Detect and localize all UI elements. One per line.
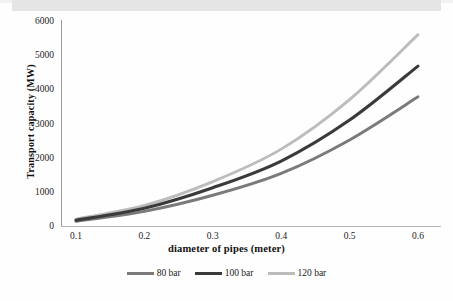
series-line-80-bar [76, 97, 418, 221]
legend-item-120-bar[interactable]: 120 bar [268, 268, 327, 279]
legend-swatch-icon [127, 272, 154, 275]
legend-label: 80 bar [157, 268, 181, 279]
legend-swatch-icon [268, 272, 295, 275]
legend-label: 100 bar [225, 268, 254, 279]
chart-curves [0, 0, 453, 301]
series-line-120-bar [76, 35, 418, 220]
legend-item-80-bar[interactable]: 80 bar [127, 268, 181, 279]
legend-item-100-bar[interactable]: 100 bar [195, 268, 254, 279]
chart-figure: 0100020003000400050006000 Transport capa… [0, 0, 453, 301]
legend-label: 120 bar [298, 268, 327, 279]
legend-swatch-icon [195, 272, 222, 275]
series-line-100-bar [76, 66, 418, 220]
chart-legend: 80 bar100 bar120 bar [0, 268, 453, 279]
